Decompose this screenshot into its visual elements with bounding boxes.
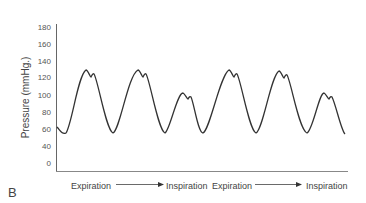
- chart-plot: [0, 0, 366, 203]
- pressure-waveform: [57, 70, 345, 134]
- arrow-head-2: [296, 182, 302, 187]
- arrow-head-1: [158, 182, 164, 187]
- x-label-inspiration-2: Inspiration: [306, 181, 348, 191]
- x-label-expiration-2: Expiration: [212, 181, 252, 191]
- panel-label: B: [8, 185, 17, 200]
- x-label-inspiration-1: Inspiration: [166, 181, 208, 191]
- x-label-expiration-1: Expiration: [71, 181, 111, 191]
